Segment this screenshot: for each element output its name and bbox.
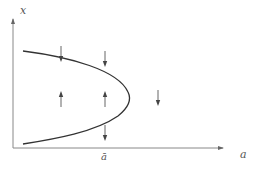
equilibrium-curve [23,51,130,144]
bifurcation-diagram [0,0,255,171]
x-axis-label: a [240,149,247,160]
y-axis-label: x [20,5,26,16]
x-tick-label-a-bar: ā [101,151,107,162]
